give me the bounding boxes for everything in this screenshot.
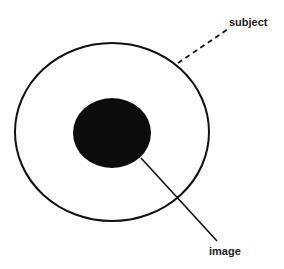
subject-label: subject xyxy=(229,16,268,28)
image-leader-line xyxy=(141,158,217,241)
diagram-canvas: subject image xyxy=(0,0,284,269)
subject-dashed-leader-line xyxy=(178,29,228,63)
image-label: image xyxy=(209,245,241,257)
image-inner-filled-ellipse xyxy=(73,98,151,168)
